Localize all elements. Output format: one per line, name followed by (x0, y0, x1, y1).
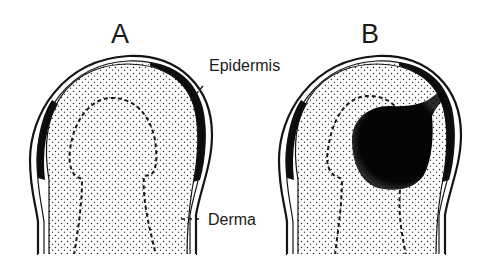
diagram-canvas: A B Epidermis De (0, 0, 493, 270)
callout-epidermis: Epidermis (192, 57, 280, 99)
panel-a-label: A (111, 19, 129, 49)
callout-derma: Derma (181, 211, 256, 228)
panel-a-dermis (46, 62, 198, 255)
panel-b: B (279, 19, 461, 255)
panel-b-label: B (361, 19, 379, 49)
epidermis-label: Epidermis (209, 57, 280, 74)
derma-label: Derma (208, 211, 256, 228)
